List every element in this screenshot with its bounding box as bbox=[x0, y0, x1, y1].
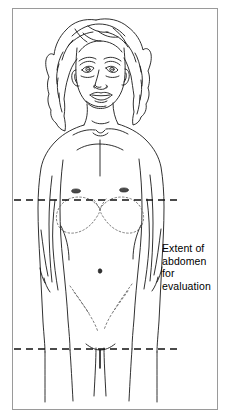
chest bbox=[77, 140, 123, 176]
neck bbox=[84, 103, 118, 125]
body-line-art bbox=[38, 19, 164, 402]
right-eye bbox=[105, 61, 120, 77]
pubic-region bbox=[86, 344, 115, 368]
torso-outline bbox=[38, 124, 164, 352]
hair bbox=[46, 19, 152, 131]
nipples bbox=[72, 188, 129, 193]
boundary-lines bbox=[14, 200, 182, 349]
eyebrows bbox=[79, 57, 121, 61]
mouth bbox=[90, 92, 112, 102]
costal-margin bbox=[56, 197, 143, 233]
inguinal-creases bbox=[70, 284, 132, 332]
right-arm bbox=[144, 175, 162, 291]
left-eye bbox=[80, 61, 95, 77]
left-ear bbox=[72, 70, 79, 86]
extent-of-abdomen-label: Extent of abdomen for evaluation bbox=[162, 242, 220, 292]
navel bbox=[98, 269, 102, 274]
right-ear bbox=[122, 69, 129, 85]
waist bbox=[61, 225, 141, 260]
legs bbox=[45, 348, 157, 402]
clavicles bbox=[73, 129, 128, 136]
figure-root: Extent of abdomen for evaluation bbox=[0, 0, 230, 419]
left-arm bbox=[40, 176, 58, 292]
anatomy-illustration bbox=[0, 0, 230, 419]
nose bbox=[94, 70, 108, 89]
face bbox=[76, 41, 125, 109]
trunk-sides bbox=[60, 159, 142, 350]
